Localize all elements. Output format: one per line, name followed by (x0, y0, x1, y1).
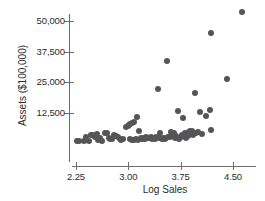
data-point (203, 113, 209, 119)
data-point (175, 108, 181, 114)
data-point (208, 127, 214, 133)
x-tick-label: 3.00 (108, 172, 148, 182)
x-tick-label: 3.75 (161, 172, 201, 182)
data-point (134, 114, 140, 120)
y-tick-mark (64, 21, 74, 22)
data-point (224, 76, 230, 82)
x-tick-mark (181, 162, 182, 170)
data-point (192, 90, 198, 96)
x-tick-mark (233, 162, 234, 170)
x-tick-label: 4.50 (213, 172, 253, 182)
data-point (99, 138, 105, 144)
x-tick-label: 2.25 (56, 172, 96, 182)
data-point (120, 136, 126, 142)
scatter-chart: 12,50025,00037,50050,000 2.253.003.754.5… (0, 0, 265, 201)
plot-area (70, 8, 260, 165)
data-point (197, 109, 203, 115)
data-point (208, 30, 214, 36)
data-point (199, 131, 205, 137)
data-point (164, 58, 170, 64)
x-axis-line (72, 166, 256, 167)
data-point (155, 86, 161, 92)
y-tick-mark (64, 52, 74, 53)
x-tick-mark (128, 162, 129, 170)
data-point (86, 138, 92, 144)
data-point (207, 107, 213, 113)
data-point (136, 128, 142, 134)
y-tick-mark (64, 82, 74, 83)
y-tick-mark (64, 113, 74, 114)
y-axis-line (69, 14, 70, 162)
data-point (239, 9, 245, 15)
x-axis-title: Log Sales (70, 184, 260, 195)
data-point (180, 115, 186, 121)
y-axis-title: Assets ($100,000) (17, 16, 28, 156)
x-tick-mark (76, 162, 77, 170)
